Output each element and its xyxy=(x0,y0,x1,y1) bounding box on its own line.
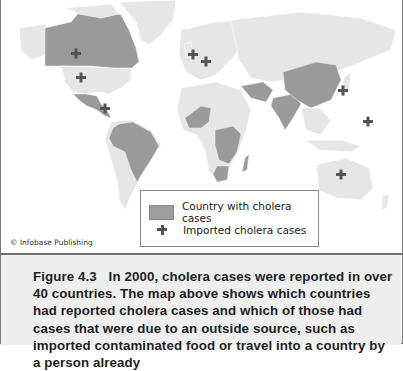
land-new-zealand xyxy=(381,194,389,210)
land-arctic-islands xyxy=(66,4,119,18)
legend-item-cholera-country: Country with cholera cases xyxy=(149,200,318,224)
land-africa xyxy=(177,82,251,180)
region-madagascar xyxy=(242,154,249,172)
region-east-africa xyxy=(215,126,241,164)
legend-label: Country with cholera cases xyxy=(182,200,318,224)
region-canada xyxy=(45,8,139,70)
plus-icon-pacific xyxy=(363,117,373,127)
land-indonesia xyxy=(306,140,361,152)
legend-item-imported: Imported cholera cases xyxy=(149,222,306,237)
map-legend: Country with cholera cases Imported chol… xyxy=(140,190,319,247)
plus-icon xyxy=(149,222,175,237)
land-usa xyxy=(61,66,131,94)
legend-label: Imported cholera cases xyxy=(183,224,306,236)
land-southeast-asia xyxy=(301,108,331,135)
land-australia xyxy=(316,158,373,200)
caption-text: Figure 4.3 In 2000, cholera cases were r… xyxy=(33,268,393,371)
world-map: Country with cholera cases Imported chol… xyxy=(1,0,401,253)
caption-body: In 2000, cholera cases were reported in … xyxy=(33,269,392,370)
figure-caption: Figure 4.3 In 2000, cholera cases were r… xyxy=(1,255,401,345)
figure-label: Figure 4.3 xyxy=(33,269,97,284)
gray-swatch-icon xyxy=(149,205,174,220)
land-alaska xyxy=(19,24,46,60)
copyright-credit: © Infobase Publishing xyxy=(10,238,93,247)
